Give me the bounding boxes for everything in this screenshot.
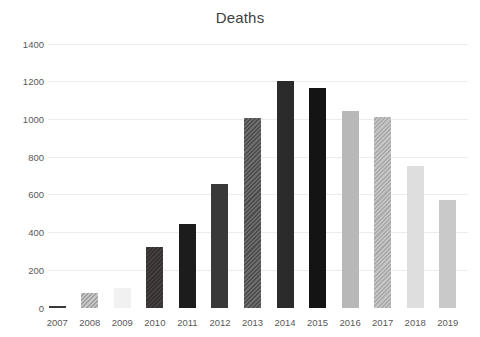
y-tick-label-1400: 1400	[8, 40, 44, 49]
y-tick-label-200: 200	[8, 266, 44, 275]
x-tick-label-2014: 2014	[268, 318, 302, 328]
x-tick-label-2010: 2010	[138, 318, 172, 328]
y-tick-label-400: 400	[8, 228, 44, 237]
x-tick-label-2018: 2018	[398, 318, 432, 328]
bar-2012	[211, 184, 228, 308]
bar-2014	[277, 81, 294, 308]
y-tick-label-600: 600	[8, 190, 44, 199]
bar-2011	[179, 224, 196, 308]
x-tick-label-2007: 2007	[40, 318, 74, 328]
bar-2007	[49, 306, 66, 308]
chart-title: Deaths	[0, 9, 480, 26]
bar-chart: Deaths 020040060080010001200140020072008…	[0, 0, 480, 337]
bar-2017	[374, 117, 391, 308]
gridline-1200	[48, 81, 468, 82]
y-tick-label-0: 0	[8, 304, 44, 313]
y-tick-label-1200: 1200	[8, 77, 44, 86]
x-tick-label-2008: 2008	[73, 318, 107, 328]
y-tick-label-1000: 1000	[8, 115, 44, 124]
bar-2009	[114, 288, 131, 308]
bar-2015	[309, 88, 326, 308]
bar-2019	[439, 200, 456, 308]
x-tick-label-2017: 2017	[366, 318, 400, 328]
x-tick-label-2019: 2019	[431, 318, 465, 328]
x-tick-label-2012: 2012	[203, 318, 237, 328]
x-tick-label-2016: 2016	[333, 318, 367, 328]
x-tick-label-2011: 2011	[170, 318, 204, 328]
bar-2018	[407, 166, 424, 308]
bar-2008	[81, 293, 98, 308]
bar-2016	[342, 111, 359, 308]
x-tick-label-2009: 2009	[105, 318, 139, 328]
y-tick-label-800: 800	[8, 153, 44, 162]
bar-2013	[244, 118, 261, 308]
x-tick-label-2015: 2015	[301, 318, 335, 328]
bar-2010	[146, 247, 163, 308]
gridline-1400	[48, 44, 468, 45]
x-tick-label-2013: 2013	[236, 318, 270, 328]
